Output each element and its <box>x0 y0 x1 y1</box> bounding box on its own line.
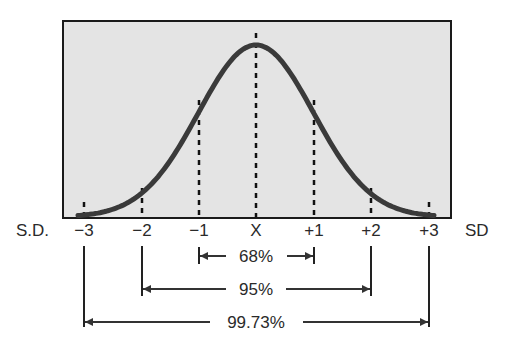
interval-label-95: 95% <box>235 281 277 298</box>
tick-minus-1: −1 <box>189 222 208 239</box>
tick-plus-1: +1 <box>304 222 323 239</box>
interval-label-68: 68% <box>235 248 277 265</box>
tick-minus-3: −3 <box>74 222 93 239</box>
axis-label-left: S.D. <box>16 222 49 239</box>
axis-label-right: SD <box>465 222 489 239</box>
plot-area <box>63 21 451 218</box>
tick-plus-3: +3 <box>419 222 438 239</box>
normal-distribution-chart <box>0 0 509 355</box>
tick-minus-2: −2 <box>132 222 151 239</box>
interval-label-9973: 99.73% <box>223 314 289 331</box>
tick-mean: X <box>250 222 261 239</box>
tick-plus-2: +2 <box>361 222 380 239</box>
